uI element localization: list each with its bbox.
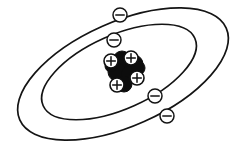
electron-outer-bottom — [160, 109, 174, 123]
proton-particle — [110, 78, 124, 92]
electron-inner-bottom — [148, 89, 162, 103]
electron-outer-top — [113, 8, 127, 22]
proton-particle — [124, 51, 138, 65]
electron-inner-top — [107, 33, 121, 47]
atom-diagram — [0, 0, 246, 149]
nucleus — [104, 51, 145, 92]
proton-particle — [104, 54, 118, 68]
proton-particle — [130, 71, 144, 85]
atom-diagram-canvas — [0, 0, 246, 149]
